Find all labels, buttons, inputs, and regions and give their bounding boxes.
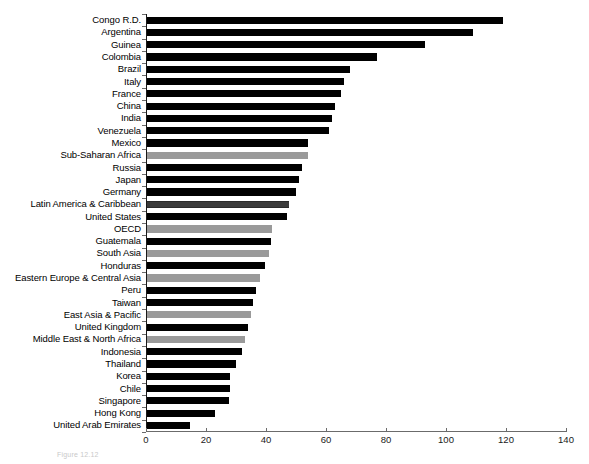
bar-row: United Arab Emirates xyxy=(0,419,589,431)
bar-track xyxy=(146,75,589,87)
bar-row: Brazil xyxy=(0,63,589,75)
x-axis-line xyxy=(146,431,566,432)
bar-row: United States xyxy=(0,211,589,223)
y-tick xyxy=(142,235,146,236)
category-label: Hong Kong xyxy=(0,408,146,418)
y-tick xyxy=(142,88,146,89)
bar xyxy=(146,262,265,269)
bar-row: Taiwan xyxy=(0,296,589,308)
bar xyxy=(146,53,377,60)
x-tick xyxy=(386,428,387,432)
y-tick xyxy=(142,39,146,40)
bar-chart: Congo R.D.ArgentinaGuineaColombiaBrazilI… xyxy=(0,0,589,464)
x-tick-label: 80 xyxy=(381,434,392,445)
x-tick xyxy=(206,428,207,432)
bar xyxy=(146,164,302,171)
y-tick xyxy=(142,137,146,138)
bar-row: France xyxy=(0,88,589,100)
y-tick xyxy=(142,75,146,76)
y-tick xyxy=(142,26,146,27)
bar-row: South Asia xyxy=(0,247,589,259)
bar-row: Thailand xyxy=(0,358,589,370)
bar xyxy=(146,152,308,159)
y-tick xyxy=(142,272,146,273)
x-tick xyxy=(146,428,147,432)
bar xyxy=(146,397,229,404)
y-axis-line xyxy=(146,14,147,432)
bar xyxy=(146,225,272,232)
bar-row: Singapore xyxy=(0,395,589,407)
category-label: Middle East & North Africa xyxy=(0,334,146,344)
category-label: East Asia & Pacific xyxy=(0,310,146,320)
bar-row: Guinea xyxy=(0,39,589,51)
bar-row: OECD xyxy=(0,223,589,235)
y-tick xyxy=(142,125,146,126)
bar-row: Italy xyxy=(0,75,589,87)
bar-track xyxy=(146,125,589,137)
bar xyxy=(146,373,230,380)
category-label: Italy xyxy=(0,77,146,87)
category-label: United Arab Emirates xyxy=(0,420,146,430)
category-label: South Asia xyxy=(0,248,146,258)
x-tick-label: 0 xyxy=(143,434,148,445)
bar-track xyxy=(146,346,589,358)
bar-track xyxy=(146,407,589,419)
bar xyxy=(146,274,260,281)
bar-row: Eastern Europe & Central Asia xyxy=(0,272,589,284)
category-label: Colombia xyxy=(0,52,146,62)
bar-row: Colombia xyxy=(0,51,589,63)
bar-row: Latin America & Caribbean xyxy=(0,198,589,210)
bar xyxy=(146,238,271,245)
bar-track xyxy=(146,284,589,296)
bar-row: Mexico xyxy=(0,137,589,149)
bar-track xyxy=(146,223,589,235)
figure-caption: Figure 12.12 xyxy=(57,451,99,458)
x-tick-label: 60 xyxy=(321,434,332,445)
x-tick-label: 100 xyxy=(438,434,454,445)
category-label: Guinea xyxy=(0,40,146,50)
category-label: China xyxy=(0,101,146,111)
x-tick-label: 120 xyxy=(498,434,514,445)
bar-track xyxy=(146,63,589,75)
y-tick xyxy=(142,112,146,113)
category-label: Honduras xyxy=(0,261,146,271)
bar-track xyxy=(146,358,589,370)
bar xyxy=(146,410,215,417)
y-tick xyxy=(142,100,146,101)
bar xyxy=(146,115,332,122)
bar xyxy=(146,127,329,134)
bar-row: Guatemala xyxy=(0,235,589,247)
y-tick xyxy=(142,358,146,359)
bar-track xyxy=(146,333,589,345)
bar-row: Chile xyxy=(0,382,589,394)
bar-track xyxy=(146,51,589,63)
y-tick xyxy=(142,383,146,384)
bar xyxy=(146,90,341,97)
bar xyxy=(146,17,503,24)
bar xyxy=(146,348,242,355)
category-label: Eastern Europe & Central Asia xyxy=(0,273,146,283)
x-tick xyxy=(506,428,507,432)
bar-row: Honduras xyxy=(0,260,589,272)
x-tick xyxy=(266,428,267,432)
y-tick xyxy=(142,198,146,199)
bar-track xyxy=(146,211,589,223)
y-tick xyxy=(142,174,146,175)
bar-track xyxy=(146,370,589,382)
bar-row: Peru xyxy=(0,284,589,296)
bar xyxy=(146,201,289,208)
bar-row: United Kingdom xyxy=(0,321,589,333)
y-tick xyxy=(142,51,146,52)
bar-track xyxy=(146,235,589,247)
bar xyxy=(146,299,253,306)
y-tick xyxy=(142,297,146,298)
category-label: India xyxy=(0,113,146,123)
category-label: Guatemala xyxy=(0,236,146,246)
bar-row: East Asia & Pacific xyxy=(0,309,589,321)
bar-row: Middle East & North Africa xyxy=(0,333,589,345)
bar xyxy=(146,324,248,331)
bar-track xyxy=(146,419,589,431)
y-tick xyxy=(142,309,146,310)
y-tick xyxy=(142,432,146,433)
category-label: Indonesia xyxy=(0,347,146,357)
